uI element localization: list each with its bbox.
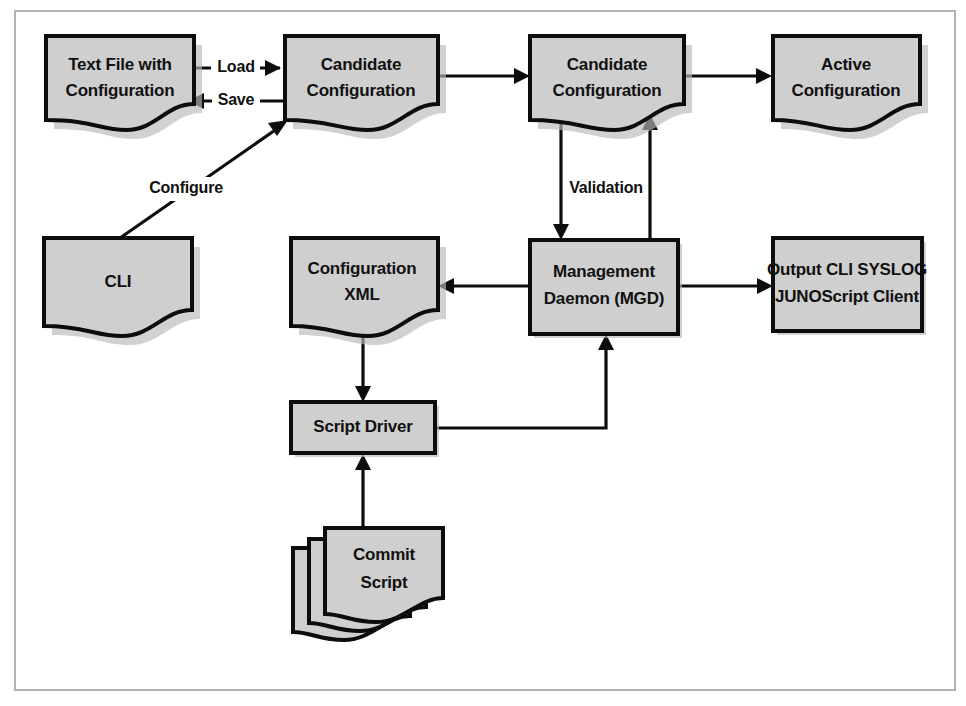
- candidate-config-right-label-line1: Candidate: [567, 55, 647, 74]
- edge-candidate-to-candidate: [438, 68, 530, 84]
- edge-driver-to-mgd: [435, 334, 614, 428]
- configuration-xml-label-line2: XML: [344, 285, 379, 304]
- edge-mgd-to-output: [678, 278, 773, 294]
- node-candidate-config-right[interactable]: Candidate Configuration: [530, 36, 692, 139]
- node-commit-script[interactable]: Commit Script: [293, 528, 443, 640]
- candidate-config-right-label-line2: Configuration: [553, 81, 662, 100]
- cli-label: CLI: [105, 272, 132, 291]
- validation-label: Validation: [569, 179, 643, 196]
- save-label: Save: [218, 91, 255, 108]
- node-text-file[interactable]: Text File with Configuration: [46, 36, 202, 139]
- text-file-label-line2: Configuration: [66, 81, 175, 100]
- candidate-config-left-label-line2: Configuration: [307, 81, 416, 100]
- edge-label-save: Save: [212, 89, 260, 113]
- active-config-label-line1: Active: [821, 55, 871, 74]
- node-candidate-config-left[interactable]: Candidate Configuration: [285, 36, 446, 139]
- management-daemon-label-line1: Management: [553, 262, 655, 281]
- active-config-label-line2: Configuration: [792, 81, 901, 100]
- commit-script-label-line1: Commit: [353, 545, 416, 564]
- text-file-label-line1: Text File with: [68, 55, 172, 74]
- node-configuration-xml[interactable]: Configuration XML: [291, 238, 446, 345]
- management-daemon-shape: [530, 240, 678, 334]
- flow-diagram-canvas: Text File with Configuration Candidate C…: [0, 0, 966, 706]
- edge-label-load: Load: [211, 56, 260, 80]
- node-active-config[interactable]: Active Configuration: [773, 36, 928, 139]
- output-clients-label-line1: Output CLI SYSLOG: [767, 260, 927, 279]
- configure-label: Configure: [149, 179, 223, 196]
- candidate-config-left-label-line1: Candidate: [321, 55, 401, 74]
- edge-label-configure: Configure: [140, 177, 232, 201]
- edge-commit-to-driver: [355, 454, 371, 528]
- output-clients-label-line2: JUNOScript Client: [775, 287, 919, 306]
- node-script-driver[interactable]: Script Driver: [291, 402, 439, 457]
- edge-label-validation: Validation: [567, 177, 646, 201]
- edge-mgd-to-xml: [438, 278, 530, 294]
- edge-validation-down: [553, 120, 569, 240]
- edge-candidate-to-active: [684, 68, 772, 84]
- management-daemon-label-line2: Daemon (MGD): [544, 289, 664, 308]
- output-clients-shape: [773, 238, 922, 331]
- node-cli[interactable]: CLI: [44, 238, 200, 345]
- load-label: Load: [217, 58, 254, 75]
- diagram-root: Text File with Configuration Candidate C…: [0, 0, 966, 706]
- configuration-xml-label-line1: Configuration: [308, 259, 417, 278]
- node-management-daemon[interactable]: Management Daemon (MGD): [530, 240, 682, 338]
- commit-script-label-line2: Script: [361, 573, 409, 592]
- node-output-clients[interactable]: Output CLI SYSLOG JUNOScript Client: [767, 238, 927, 335]
- script-driver-label: Script Driver: [313, 417, 413, 436]
